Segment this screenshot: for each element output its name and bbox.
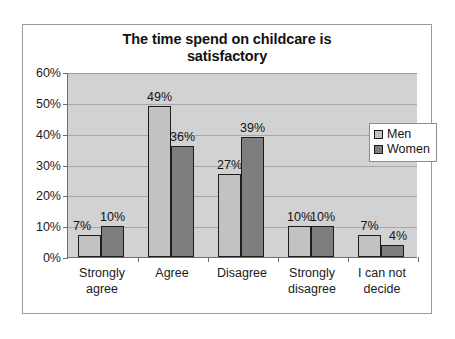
x-axis-tick <box>348 257 349 262</box>
bar-men[interactable] <box>358 235 381 257</box>
category-label-line: Strongly <box>79 265 125 281</box>
category-label-line: decide <box>358 281 406 297</box>
legend-item-men[interactable]: Men <box>374 127 430 142</box>
bar-value-label: 27% <box>217 158 242 172</box>
bar-men[interactable] <box>148 106 171 257</box>
bar-women[interactable] <box>311 226 334 257</box>
y-axis-label: 50% <box>36 97 61 111</box>
bar-value-label: 7% <box>73 219 91 233</box>
category-label: Agree <box>155 265 188 281</box>
bar-group: 10%10% <box>278 73 348 257</box>
bar-value-label: 10% <box>100 210 125 224</box>
category-label: Stronglyagree <box>79 265 125 297</box>
chart-title-line-1: The time spend on childcare is <box>23 31 431 48</box>
x-axis-tick <box>208 257 209 262</box>
bar-group: 27%39% <box>208 73 278 257</box>
legend-item-women[interactable]: Women <box>374 142 430 157</box>
chart-title: The time spend on childcare is satisfact… <box>23 31 431 65</box>
legend-label-men: Men <box>387 128 411 141</box>
bar-men[interactable] <box>218 174 241 257</box>
y-axis-label: 30% <box>36 159 61 173</box>
bar-group: 7%10% <box>68 73 138 257</box>
bar-women[interactable] <box>171 146 194 257</box>
bar-group: 7%4% <box>348 73 418 257</box>
plot-area: 0%10%20%30%40%50%60%7%10%49%36%27%39%10%… <box>67 73 417 258</box>
bar-men[interactable] <box>288 226 311 257</box>
legend-label-women: Women <box>387 143 430 156</box>
legend-swatch-women-icon <box>374 145 383 154</box>
category-label: I can notdecide <box>358 265 406 297</box>
category-label-line: Disagree <box>217 265 267 281</box>
category-label: Stronglydisagree <box>288 265 336 297</box>
y-axis-label: 0% <box>43 251 61 265</box>
bar-women[interactable] <box>241 137 264 257</box>
category-label: Disagree <box>217 265 267 281</box>
chart-frame: The time spend on childcare is satisfact… <box>22 24 432 314</box>
category-axis-labels: StronglyagreeAgreeDisagreeStronglydisagr… <box>67 265 417 311</box>
y-axis-label: 10% <box>36 220 61 234</box>
bar-women[interactable] <box>101 226 124 257</box>
legend-swatch-men-icon <box>374 130 383 139</box>
bar-group: 49%36% <box>138 73 208 257</box>
category-label-line: Strongly <box>288 265 336 281</box>
y-axis-tick <box>63 258 68 259</box>
bar-value-label: 10% <box>287 210 312 224</box>
chart-title-line-2: satisfactory <box>23 48 431 65</box>
bar-value-label: 49% <box>147 90 172 104</box>
y-axis-label: 40% <box>36 128 61 142</box>
category-label-line: Agree <box>155 265 188 281</box>
bar-value-label: 7% <box>360 219 378 233</box>
x-axis-tick <box>418 257 419 262</box>
y-axis-label: 20% <box>36 189 61 203</box>
x-axis-tick <box>278 257 279 262</box>
category-label-line: agree <box>79 281 125 297</box>
chart-legend: Men Women <box>369 123 437 162</box>
bar-women[interactable] <box>381 245 404 257</box>
x-axis-tick <box>138 257 139 262</box>
bar-value-label: 4% <box>389 229 407 243</box>
bar-men[interactable] <box>78 235 101 257</box>
category-label-line: I can not <box>358 265 406 281</box>
bar-value-label: 39% <box>240 121 265 135</box>
category-label-line: disagree <box>288 281 336 297</box>
bar-value-label: 10% <box>310 210 335 224</box>
bar-value-label: 36% <box>170 130 195 144</box>
y-axis-label: 60% <box>36 66 61 80</box>
